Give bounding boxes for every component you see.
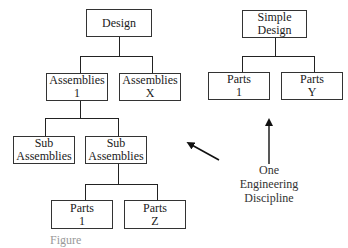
arrow-up-left-icon <box>190 144 219 160</box>
annotation-line: One <box>238 163 300 177</box>
annotation-line: Discipline <box>238 191 300 205</box>
annotation-line: Engineering <box>238 177 300 191</box>
figure-caption: Figure <box>50 233 81 248</box>
one-engineering-discipline-label: One Engineering Discipline <box>238 163 300 205</box>
